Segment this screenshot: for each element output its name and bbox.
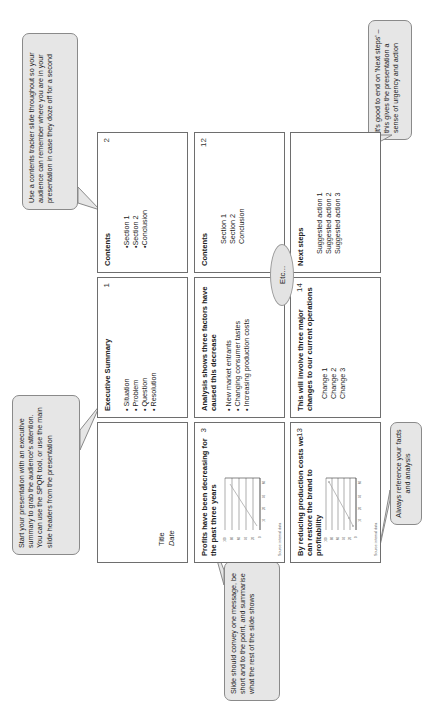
- list-item: Resolution: [149, 284, 158, 411]
- list-item: Section 1: [219, 139, 228, 244]
- svg-text:60: 60: [358, 481, 362, 484]
- svg-text:40: 40: [358, 495, 362, 498]
- svg-text:80: 80: [330, 537, 334, 540]
- slide-number: 3: [199, 428, 209, 432]
- list-item: Change 1: [320, 284, 329, 399]
- svg-text:20: 20: [358, 507, 362, 510]
- slide-number: 1: [102, 283, 112, 287]
- slide-number: 12: [199, 138, 209, 147]
- chart-source: Source: internal data: [374, 523, 378, 556]
- callout-start-text: Start your presentation with an executiv…: [17, 407, 54, 548]
- slide-number: 2: [102, 138, 112, 142]
- callout-one-message-text: Slide should convey one message, be shor…: [229, 573, 256, 694]
- list-item: Question: [140, 284, 149, 411]
- slide-executive-summary: Executive Summary Situation Problem Ques…: [97, 277, 188, 418]
- list-item: Changing consumer tastes: [233, 284, 242, 411]
- svg-text:100: 100: [324, 537, 328, 542]
- svg-text:40: 40: [244, 537, 248, 540]
- svg-text:20: 20: [262, 507, 266, 510]
- callout-reference: Always reference your facts and analysis: [390, 422, 422, 525]
- svg-text:0: 0: [354, 536, 358, 538]
- slide-heading: Analysis shows three factors have caused…: [200, 284, 218, 411]
- svg-text:60: 60: [336, 537, 340, 540]
- profitability-line-chart: 1008060 40200 10204060: [323, 474, 369, 544]
- list-item: Situation: [122, 284, 131, 411]
- callout-tracker-text: Use a contents tracker slide throughout …: [27, 52, 54, 203]
- callout-start-presentation: Start your presentation with an executiv…: [12, 395, 80, 555]
- etc-label: Etc...: [278, 266, 287, 284]
- slide-title-text: Title: [157, 530, 167, 546]
- chart-source: Source: internal data: [278, 523, 282, 556]
- slide-heading: Profits have been decreasing for the pas…: [200, 429, 218, 556]
- svg-text:20: 20: [348, 537, 352, 540]
- slide-heading: Next steps: [296, 139, 305, 266]
- slide-reducing-costs-chart: By reducing production costs we can rest…: [290, 422, 381, 563]
- callout-next-steps-text: It's good to end on 'Next steps' – this …: [373, 29, 400, 133]
- list-item: Change 2: [329, 284, 338, 399]
- slide-heading: By reducing production costs we can rest…: [296, 429, 323, 556]
- list-item: Change 3: [338, 284, 347, 399]
- profits-line-chart: 1008060 40200 10204060: [221, 474, 271, 544]
- callout-contents-tracker: Use a contents tracker slide throughout …: [22, 33, 78, 210]
- svg-text:0: 0: [258, 536, 262, 538]
- slide-heading: Contents: [103, 139, 112, 266]
- svg-text:10: 10: [262, 519, 266, 522]
- slide-heading: This will involve three major changes to…: [296, 284, 314, 411]
- list-item: Increasing production costs: [242, 284, 251, 411]
- svg-text:10: 10: [358, 519, 362, 522]
- list-item: Section 2: [228, 139, 237, 244]
- slide-profits-chart: Profits have been decreasing for the pas…: [194, 422, 285, 563]
- slide-heading: Executive Summary: [103, 284, 112, 411]
- slide-title: Title Date: [97, 422, 188, 563]
- slide-number: 13: [295, 428, 305, 437]
- list-item: Problem: [131, 284, 140, 411]
- list-item: Section 2: [131, 139, 140, 248]
- list-item: Suggested action 2: [324, 139, 333, 254]
- slide-contents-12: Contents Section 1 Section 2 Conclusion …: [194, 132, 285, 273]
- slide-date-text: Date: [167, 530, 177, 546]
- svg-text:80: 80: [230, 537, 234, 540]
- svg-text:40: 40: [262, 495, 266, 498]
- list-item: Suggested action 1: [315, 139, 324, 254]
- callout-next-steps: It's good to end on 'Next steps' – this …: [368, 20, 412, 140]
- callout-reference-text: Always reference your facts and analysis: [394, 429, 412, 517]
- callout-one-message: Slide should convey one message, be shor…: [224, 561, 280, 701]
- svg-text:100: 100: [223, 537, 227, 542]
- slide-contents-2: Contents Section 1 Section 2 Conclusion …: [97, 132, 188, 273]
- list-item: Conclusion: [140, 139, 149, 248]
- slide-analysis: Analysis shows three factors have caused…: [194, 277, 285, 418]
- slide-heading: Contents: [200, 139, 209, 266]
- slide-next-steps: Next steps Suggested action 1 Suggested …: [290, 132, 381, 273]
- svg-text:40: 40: [342, 537, 346, 540]
- slide-number: 14: [295, 283, 305, 292]
- svg-text:60: 60: [237, 537, 241, 540]
- list-item: Conclusion: [237, 139, 246, 244]
- slide-changes: This will involve three major changes to…: [290, 277, 381, 418]
- svg-text:60: 60: [262, 481, 266, 484]
- list-item: Suggested action 3: [333, 139, 342, 254]
- list-item: Section 1: [122, 139, 131, 248]
- list-item: New market entrants: [224, 284, 233, 411]
- etc-ellipse: Etc...: [270, 244, 294, 306]
- svg-text:20: 20: [251, 537, 255, 540]
